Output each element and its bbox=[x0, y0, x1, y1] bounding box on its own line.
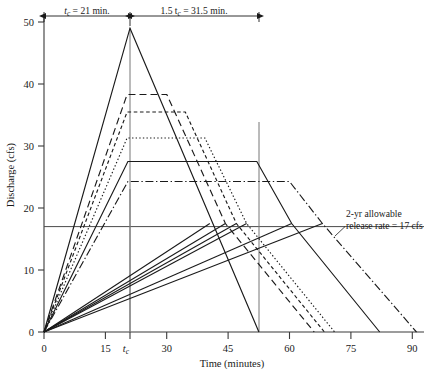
allowable-label-line1: 2-yr allowable bbox=[346, 208, 402, 219]
hydrograph-21min bbox=[44, 28, 259, 332]
hydrograph-figure: 0 10 20 30 40 50 0 15 30 bbox=[0, 0, 432, 371]
hydrograph-curves bbox=[44, 28, 417, 332]
y-axis-title: Discharge (cfs) bbox=[5, 142, 17, 207]
y-tick-label-0: 0 bbox=[29, 327, 34, 338]
x-tick-label-0: 0 bbox=[41, 343, 46, 354]
allowable-release-callout: 2-yr allowable release rate = 17 cfs bbox=[335, 208, 423, 236]
x-ticks bbox=[44, 332, 412, 339]
x-axis-title: Time (minutes) bbox=[200, 358, 265, 370]
x-tick-label-60: 60 bbox=[284, 343, 295, 354]
hydrograph-31.5min bbox=[44, 112, 324, 332]
plot-area: 0 10 20 30 40 50 0 15 30 bbox=[5, 5, 424, 370]
y-ticks bbox=[38, 22, 44, 332]
x-tick-label-15: 15 bbox=[100, 343, 111, 354]
x-tick-label-30: 30 bbox=[161, 343, 172, 354]
y-tick-label-30: 30 bbox=[24, 141, 35, 152]
release-line-3 bbox=[44, 224, 236, 333]
x-tick-label-75: 75 bbox=[346, 343, 357, 354]
dimension-annotations: tc = 21 min. 1.5 tc = 31.5 min. bbox=[44, 5, 259, 26]
hydrograph-svg: 0 10 20 30 40 50 0 15 30 bbox=[0, 0, 432, 371]
release-line-5 bbox=[44, 224, 292, 333]
hydrograph-52min bbox=[44, 162, 380, 333]
release-line-1 bbox=[44, 224, 210, 333]
x-tick-labels: 0 15 30 45 60 75 90 tc bbox=[41, 343, 417, 356]
y-tick-label-20: 20 bbox=[24, 203, 35, 214]
x-tick-label-90: 90 bbox=[407, 343, 418, 354]
x-tick-label-tc: tc bbox=[123, 343, 130, 356]
y-tick-label-10: 10 bbox=[24, 265, 35, 276]
hydrograph-26min bbox=[44, 95, 314, 333]
x-tick-label-45: 45 bbox=[223, 343, 234, 354]
y-tick-label-50: 50 bbox=[24, 17, 35, 28]
y-tick-labels: 0 10 20 30 40 50 bbox=[24, 17, 35, 338]
hydrograph-60min bbox=[44, 182, 417, 333]
allowable-label-line2: release rate = 17 cfs bbox=[346, 220, 423, 231]
callout-leader-line bbox=[335, 227, 345, 236]
y-tick-label-40: 40 bbox=[24, 79, 35, 90]
